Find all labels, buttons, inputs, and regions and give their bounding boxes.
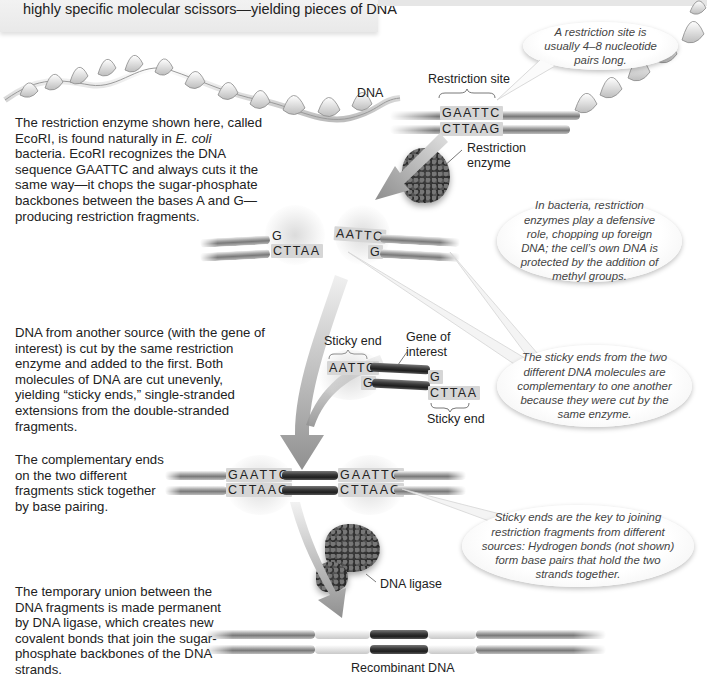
dna-ligase-label: DNA ligase bbox=[380, 577, 442, 591]
sticky-end-label-bottom: Sticky end bbox=[427, 412, 485, 426]
recombinant-dna-label: Recombinant DNA bbox=[351, 661, 455, 675]
recombinant-gene-bottom bbox=[370, 645, 428, 654]
restriction-enzyme-label-line2: enzyme bbox=[467, 156, 511, 170]
step-3-text: The complementary ends on the two differ… bbox=[15, 452, 165, 514]
recombinant-strand-top-2 bbox=[315, 630, 370, 639]
step-4-text: The temporary union between the DNA frag… bbox=[15, 584, 235, 678]
fragment-left-strand-top bbox=[200, 235, 270, 248]
step-1-text: The restriction enzyme shown here, calle… bbox=[15, 115, 265, 224]
joined-strand-bottom-left bbox=[165, 486, 227, 495]
sticky-end-label-top: Sticky end bbox=[324, 334, 382, 348]
gene-of-interest-label-line1: Gene of bbox=[406, 330, 450, 344]
gene-right-bottom-sequence: CTTAA bbox=[428, 386, 480, 400]
joined-strand-top-right bbox=[394, 471, 466, 480]
recombinant-strand-bottom-2 bbox=[315, 645, 370, 654]
process-arrow-3 bbox=[280, 500, 380, 620]
joined-gene-strand-top bbox=[282, 471, 338, 480]
restriction-site-brace-icon bbox=[438, 89, 498, 99]
gene-cloud bbox=[315, 350, 385, 400]
recombinant-gene-top bbox=[370, 630, 428, 639]
recombinant-strand-top-1 bbox=[205, 630, 315, 639]
restriction-enzyme-label-line1: Restriction bbox=[467, 141, 526, 155]
recombinant-strand-top-3 bbox=[428, 630, 476, 639]
recombinant-strand-bottom-3 bbox=[428, 645, 476, 654]
callout-key-to-joining: Sticky ends are the key to joining restr… bbox=[462, 505, 694, 587]
gene-of-interest-label-line2: interest bbox=[406, 345, 447, 359]
site-top-sequence: GAATTC bbox=[440, 106, 503, 120]
gene-right-top-sequence: G bbox=[428, 370, 443, 384]
joined-strand-top-left bbox=[165, 471, 227, 480]
sticky-end-bottom-brace-icon bbox=[430, 402, 470, 412]
recombinant-strand-top-4 bbox=[476, 630, 606, 639]
callout-complementary-sticky-ends: The sticky ends from the two different D… bbox=[497, 345, 692, 427]
callout-pointer bbox=[495, 58, 575, 108]
dna-label: DNA bbox=[357, 86, 383, 100]
recombinant-strand-bottom-4 bbox=[476, 645, 606, 654]
recombinant-strand-bottom-1 bbox=[205, 645, 315, 654]
cut-left-top-sequence: G bbox=[270, 229, 285, 243]
joined-gene-strand-bottom bbox=[282, 486, 338, 495]
